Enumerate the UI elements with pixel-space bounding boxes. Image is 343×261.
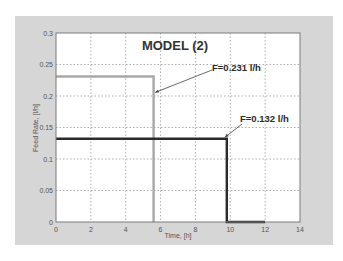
x-axis-label: Time, [h]: [165, 232, 192, 240]
y-axis-ticks: 00.050.10.150.20.250.3: [39, 30, 53, 226]
svg-text:0.1: 0.1: [43, 156, 53, 163]
svg-text:8: 8: [193, 226, 197, 233]
svg-text:10: 10: [226, 226, 234, 233]
svg-text:2: 2: [89, 226, 93, 233]
y-axis-label: Feed Rate, [l/h]: [32, 104, 40, 152]
svg-text:0.25: 0.25: [39, 61, 53, 68]
svg-text:0.3: 0.3: [43, 30, 53, 37]
svg-text:14: 14: [296, 226, 304, 233]
annotation-gray-series: F=0.231 l/h: [212, 62, 261, 73]
svg-text:0.2: 0.2: [43, 93, 53, 100]
svg-text:0: 0: [54, 226, 58, 233]
svg-text:4: 4: [124, 226, 128, 233]
annotation-black-series: F=0.132 l/h: [240, 113, 289, 124]
svg-text:12: 12: [261, 226, 269, 233]
svg-text:0.15: 0.15: [39, 124, 53, 131]
svg-text:6: 6: [159, 226, 163, 233]
feed-rate-chart: 02468101214 00.050.10.150.20.250.3 MODEL…: [0, 0, 343, 261]
chart-title: MODEL (2): [142, 38, 208, 53]
svg-text:0: 0: [49, 219, 53, 226]
svg-text:0.05: 0.05: [39, 187, 53, 194]
